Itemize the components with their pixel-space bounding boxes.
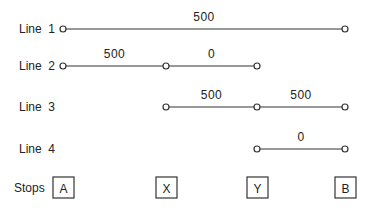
stop-box-label: Y bbox=[253, 182, 261, 196]
line-label: Line 1 bbox=[19, 22, 55, 36]
segment-value: 500 bbox=[201, 88, 223, 102]
segment-value: 500 bbox=[104, 47, 126, 61]
stop-node bbox=[342, 146, 348, 152]
stop-node bbox=[254, 63, 260, 69]
line-label: Line 4 bbox=[19, 142, 55, 156]
segment-value: 0 bbox=[208, 47, 215, 61]
stop-node bbox=[342, 104, 348, 110]
line-label: Line 2 bbox=[19, 59, 55, 73]
line-label: Line 3 bbox=[19, 100, 55, 114]
stop-node bbox=[163, 104, 169, 110]
stops-label: Stops bbox=[14, 181, 45, 195]
stop-box-label: B bbox=[341, 182, 349, 196]
segment-value: 500 bbox=[290, 88, 312, 102]
stop-node bbox=[60, 63, 66, 69]
stop-node bbox=[60, 26, 66, 32]
stop-box-label: A bbox=[59, 182, 67, 196]
stop-box-label: X bbox=[162, 182, 170, 196]
segment-value: 0 bbox=[297, 130, 304, 144]
stop-node bbox=[254, 146, 260, 152]
stop-node bbox=[342, 26, 348, 32]
stop-node bbox=[254, 104, 260, 110]
segment-value: 500 bbox=[193, 10, 215, 24]
line-stops-diagram: Line 1500Line 25000Line 3500500Line 40St… bbox=[0, 0, 376, 213]
stop-node bbox=[163, 63, 169, 69]
